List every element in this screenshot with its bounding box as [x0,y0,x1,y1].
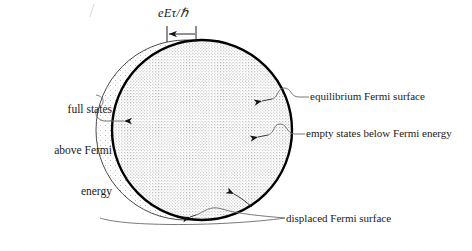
full-states-line-3: energy [8,185,112,199]
shift-label: eEτ/ℏ [158,6,188,21]
full-states-label: full states above Fermi energy [8,76,112,225]
fermi-surface-diagram: eEτ/ℏ full states above Fermi energy equ… [0,0,472,251]
displaced-fermi-surface-label: displaced Fermi surface [286,212,391,225]
equilibrium-fermi-surface-label: equilibrium Fermi surface [310,90,425,103]
displaced-fermi-surface [112,40,292,220]
full-states-line-2: above Fermi [8,144,112,158]
empty-states-label: empty states below Fermi energy [306,127,452,140]
stray-slash-mark [90,4,94,17]
full-states-line-1: full states [8,103,112,117]
